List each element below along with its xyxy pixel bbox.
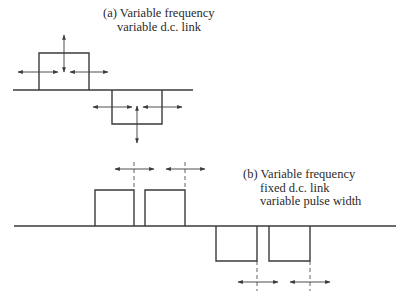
panel-a-caption-line-2: variable d.c. link [103,21,215,35]
waveform-diagram [0,0,406,301]
panel-a-waveform [13,35,193,143]
panel-b-caption-line-1: (b) Variable frequency [243,168,361,182]
positive-pulse [95,190,134,226]
panel-b-caption-line-2: fixed d.c. link [243,182,361,196]
panel-b-caption: (b) Variable frequency fixed d.c. link v… [243,168,361,209]
negative-pulse [269,226,310,261]
panel-a-caption-line-1: (a) Variable frequency [103,7,215,21]
panel-a-caption: (a) Variable frequency variable d.c. lin… [103,7,215,34]
positive-pulse [145,190,185,226]
negative-pulse [216,226,257,261]
panel-b-caption-line-3: variable pulse width [243,195,361,209]
